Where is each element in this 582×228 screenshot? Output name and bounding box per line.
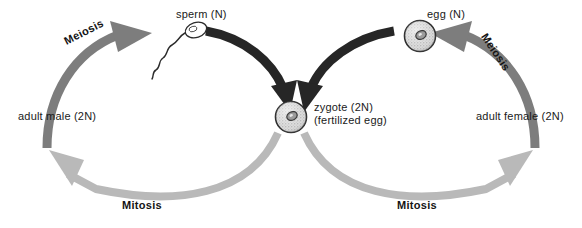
egg-cell-icon <box>405 21 436 52</box>
fertilization-arrow-right <box>297 31 394 112</box>
label-zygote-fertilized-egg: (fertilized egg) <box>314 114 387 126</box>
label-sperm: sperm (N) <box>176 8 227 20</box>
life-cycle-diagram: sperm (N) egg (N) adult male (2N) adult … <box>0 0 582 228</box>
label-egg: egg (N) <box>427 8 465 20</box>
label-zygote: zygote (2N) <box>314 101 373 113</box>
sperm-cell-icon <box>152 19 209 79</box>
label-adult-male: adult male (2N) <box>18 110 96 122</box>
zygote-cell-icon <box>276 102 307 133</box>
label-mitosis-left: Mitosis <box>122 199 162 211</box>
label-adult-female: adult female (2N) <box>476 110 564 122</box>
fertilization-arrow-left <box>206 31 297 112</box>
mitosis-arrow-left <box>49 133 278 196</box>
mitosis-arrow-right <box>304 133 533 196</box>
label-mitosis-right: Mitosis <box>397 199 437 211</box>
meiosis-arrow-left <box>47 21 152 148</box>
